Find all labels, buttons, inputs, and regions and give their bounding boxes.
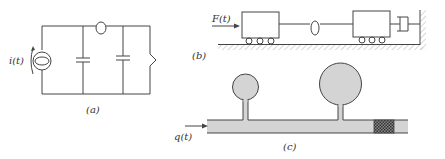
caption-a: (a) [86, 104, 100, 115]
panel-c-fluid: q(t) (c) [174, 63, 408, 152]
wheel-icon [246, 38, 252, 44]
wheel-icon [257, 38, 263, 44]
resistor-icon [150, 54, 156, 66]
figure-canvas: i(t) (a) F(t) [0, 0, 445, 159]
caption-b: (b) [192, 50, 206, 61]
panel-a-circuit: i(t) (a) [9, 22, 156, 115]
cart-1 [242, 12, 279, 38]
wheel-icon [268, 38, 274, 44]
spring-icon [311, 21, 319, 35]
wheel-icon [379, 37, 385, 43]
source-label: i(t) [9, 55, 24, 66]
force-label: F(t) [211, 13, 231, 24]
wheel-icon [369, 37, 375, 43]
large-tank [320, 63, 362, 105]
caption-c: (c) [283, 141, 297, 152]
small-tank [233, 74, 259, 100]
inductor-icon [96, 22, 106, 34]
flow-label: q(t) [174, 131, 192, 142]
current-source-icon [33, 52, 51, 70]
porous-plug [374, 120, 394, 133]
ground-hatch [218, 45, 423, 50]
panel-b-mechanical: F(t) (b) [192, 10, 426, 61]
wall-hatch [420, 10, 426, 50]
wheel-icon [359, 37, 365, 43]
cart-2 [353, 11, 390, 37]
